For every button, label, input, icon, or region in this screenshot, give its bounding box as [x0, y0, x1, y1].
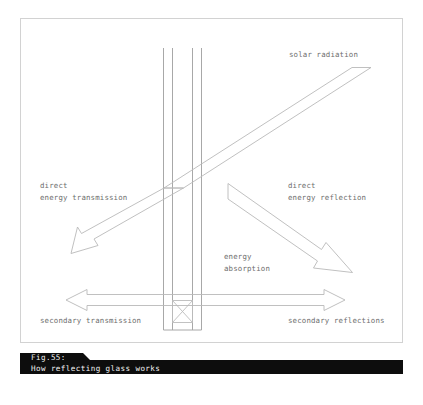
figure-container: solar radiation direct energy transmissi…	[0, 0, 423, 405]
caption-title: How reflecting glass works	[31, 364, 160, 373]
label-direct-transmission-line1: direct	[40, 181, 68, 190]
label-direct-transmission-line2: energy transmission	[40, 193, 127, 202]
label-secondary-reflections: secondary reflections	[288, 316, 385, 325]
label-energy-absorption-line1: energy	[224, 252, 252, 261]
label-direct-reflection-line1: direct	[288, 181, 316, 190]
reflecting-glass-diagram: solar radiation direct energy transmissi…	[0, 0, 423, 405]
label-energy-absorption-line2: absorption	[224, 264, 270, 273]
label-secondary-transmission: secondary transmission	[40, 316, 141, 325]
label-direct-reflection-line2: energy reflection	[288, 193, 366, 202]
caption-figure-number: Fig.55:	[31, 353, 66, 362]
label-solar-radiation: solar radiation	[289, 50, 358, 59]
